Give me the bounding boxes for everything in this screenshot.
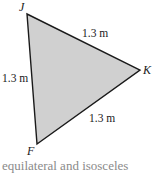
triangle-diagram: J K F 1.3 m 1.3 m 1.3 m	[0, 0, 154, 176]
side-label-jk: 1.3 m	[82, 27, 108, 39]
vertex-label-k: K	[142, 63, 152, 77]
caption: equilateral and isosceles	[2, 158, 128, 174]
side-label-kf: 1.3 m	[89, 112, 115, 124]
side-label-jf: 1.3 m	[2, 72, 28, 84]
vertex-label-j: J	[19, 0, 25, 14]
vertex-label-f: F	[26, 144, 35, 158]
